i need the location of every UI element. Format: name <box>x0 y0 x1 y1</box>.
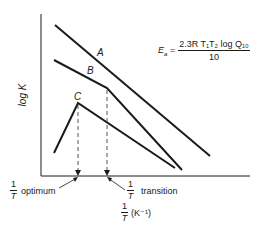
optimum-arrowhead <box>75 170 81 176</box>
activation-energy-equation: Ea = 2.3R T₁T₂ log Q₁₀ 10 <box>158 39 250 62</box>
optimum-label: optimum <box>21 187 56 196</box>
curve-c-label: C <box>74 92 81 102</box>
transition-fraction: 1 T <box>127 180 134 201</box>
curve-a-label: A <box>97 48 104 58</box>
equation-lhs: Ea = <box>158 45 175 57</box>
x-axis-fraction: 1 T <box>121 202 128 223</box>
arrhenius-diagram: A B C log K Ea = 2.3R T₁T₂ log Q₁₀ 10 1 … <box>0 0 265 232</box>
equation-denominator: 10 <box>209 51 219 62</box>
optimum-leader-arrow <box>73 177 78 182</box>
equation-numerator: 2.3R T₁T₂ log Q₁₀ <box>178 39 250 51</box>
curve-b-label: B <box>87 66 94 76</box>
transition-label: transition <box>141 187 178 196</box>
transition-arrowhead <box>104 170 110 176</box>
x-axis-unit: (K⁻¹) <box>131 209 151 218</box>
y-axis-label: log K <box>18 84 28 107</box>
optimum-fraction: 1 T <box>10 180 17 201</box>
curve-c <box>54 103 175 168</box>
equation-fraction: 2.3R T₁T₂ log Q₁₀ 10 <box>178 39 250 62</box>
transition-leader-arrow <box>107 177 112 182</box>
